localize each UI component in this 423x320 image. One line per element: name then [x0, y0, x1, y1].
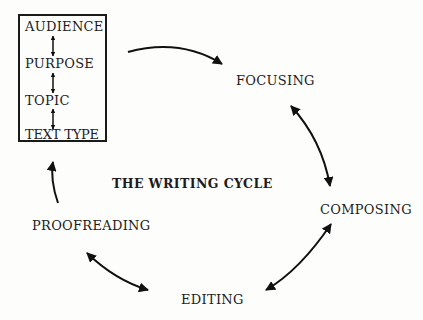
arrow-editing-proofreading — [87, 253, 148, 290]
arrow-composing-editing — [266, 224, 331, 290]
arrow-focusing-composing — [291, 106, 330, 186]
arrow-box-to-focusing — [128, 47, 222, 64]
arrows-layer — [0, 0, 423, 320]
arrow-proofreading-to-box — [52, 162, 58, 203]
